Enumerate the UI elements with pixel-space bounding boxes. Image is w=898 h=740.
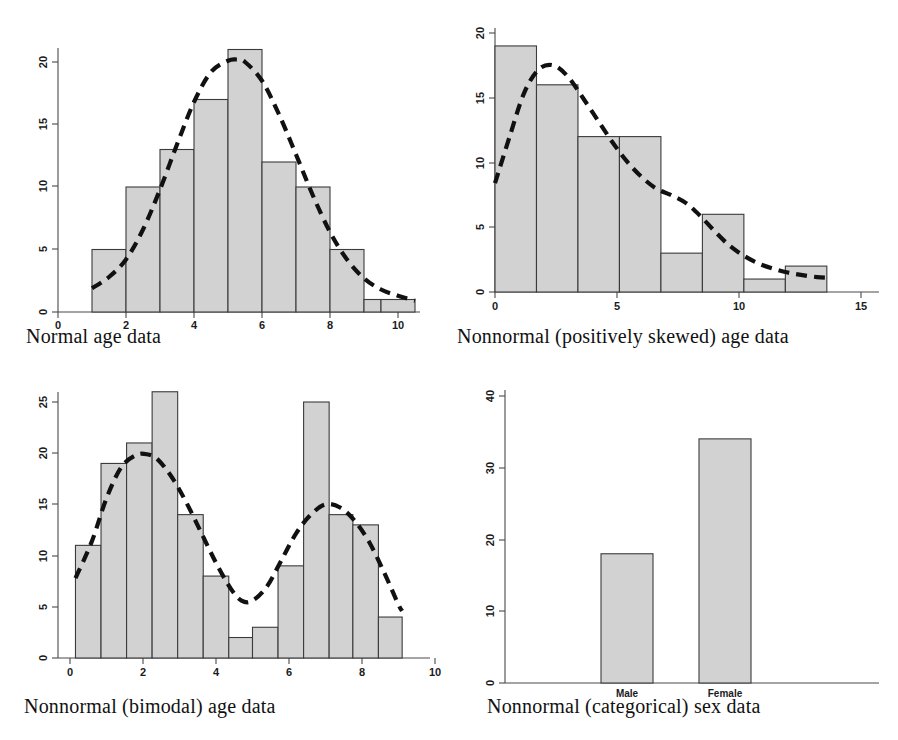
histogram-bar	[536, 85, 577, 292]
y-tick-label: 30	[484, 462, 496, 474]
y-tick-label: 20	[37, 447, 49, 459]
histogram-bars-bimodal-age	[75, 392, 402, 658]
histogram-bar	[353, 525, 379, 658]
x-tick-label: 10	[429, 666, 441, 678]
histogram-bar	[229, 638, 253, 658]
figure-root: 0 5 10 15 20 0 2 4 6 8 10 N	[0, 0, 898, 740]
histogram-bar	[75, 545, 101, 658]
y-tick-label: 0	[484, 680, 496, 686]
chart-categorical-sex: 0 10 20 30 40 Male Female	[449, 370, 898, 700]
histogram-bar	[92, 250, 126, 313]
panel-categorical-sex: 0 10 20 30 40 Male Female Nonnormal (cat…	[449, 370, 898, 740]
bars-categorical-sex	[601, 439, 751, 683]
panel-bimodal-age: 0 5 10 15 20 25 0 2 4 6 8 10	[0, 370, 449, 740]
histogram-bar	[101, 463, 127, 658]
y-tick-label: 15	[474, 92, 486, 104]
axes-categorical-sex: 0 10 20 30 40	[484, 390, 879, 686]
histogram-bar	[127, 443, 153, 658]
chart-bimodal-age: 0 5 10 15 20 25 0 2 4 6 8 10	[0, 370, 449, 700]
y-tick-label: 5	[37, 604, 49, 610]
histogram-bar	[661, 253, 702, 292]
x-tick-label: 0	[67, 666, 73, 678]
y-tick-label: 15	[37, 498, 49, 510]
category-bar	[601, 554, 653, 683]
histogram-bar	[228, 50, 262, 313]
y-tick-label: 10	[37, 550, 49, 562]
panel-caption-bimodal-age: Nonnormal (bimodal) age data	[0, 695, 449, 718]
x-tick-label: 2	[140, 666, 146, 678]
y-tick-label: 0	[474, 289, 486, 295]
panel-caption-categorical-sex: Nonnormal (categorical) sex data	[449, 695, 898, 718]
histogram-bar	[495, 46, 536, 292]
category-bar	[699, 439, 751, 683]
chart-skewed-age: 0 5 10 15 20 0 5 10 15	[449, 0, 898, 330]
histogram-bar	[160, 150, 194, 313]
histogram-bar	[194, 100, 228, 313]
histogram-bar	[578, 137, 619, 292]
histogram-bar	[278, 566, 304, 658]
y-tick-label: 40	[484, 390, 496, 402]
panel-caption-skewed-age: Nonnormal (positively skewed) age data	[449, 325, 898, 348]
y-tick-label: 10	[37, 180, 49, 192]
y-tick-label: 10	[474, 157, 486, 169]
histogram-bar	[203, 576, 229, 658]
histogram-bar	[296, 187, 330, 312]
y-tick-label: 5	[474, 224, 486, 230]
y-tick-label: 5	[37, 246, 49, 252]
histogram-bar	[262, 162, 296, 312]
histogram-bar	[253, 627, 279, 658]
histogram-bar	[152, 392, 178, 658]
y-tick-label: 20	[37, 56, 49, 68]
panel-normal-age: 0 5 10 15 20 0 2 4 6 8 10 N	[0, 0, 449, 370]
histogram-bars-skewed-age	[495, 46, 827, 292]
x-tick-label: 4	[213, 666, 220, 678]
histogram-bar	[304, 402, 330, 658]
x-tick-label: 0	[492, 300, 498, 312]
histogram-bar	[381, 300, 415, 313]
panel-skewed-age: 0 5 10 15 20 0 5 10 15 Nonnormal (positi…	[449, 0, 898, 370]
y-tick-label: 20	[484, 534, 496, 546]
y-tick-label: 25	[37, 396, 49, 408]
histogram-bars-normal-age	[92, 50, 415, 313]
x-tick-label: 5	[614, 300, 620, 312]
histogram-bar	[329, 515, 353, 658]
y-tick-label: 0	[37, 655, 49, 661]
chart-normal-age: 0 5 10 15 20 0 2 4 6 8 10	[0, 0, 449, 330]
x-tick-label: 15	[855, 300, 867, 312]
histogram-bar	[744, 279, 785, 292]
y-tick-label: 0	[37, 309, 49, 315]
y-tick-label: 20	[474, 27, 486, 39]
x-tick-label: 6	[286, 666, 292, 678]
y-tick-label: 10	[484, 605, 496, 617]
histogram-bar	[364, 300, 381, 313]
histogram-bar	[378, 617, 402, 658]
x-tick-label: 8	[359, 666, 365, 678]
histogram-bar	[178, 515, 204, 658]
y-tick-label: 15	[37, 118, 49, 130]
panel-caption-normal-age: Normal age data	[0, 325, 449, 348]
x-tick-label: 10	[733, 300, 745, 312]
